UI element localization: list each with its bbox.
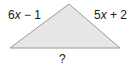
left-side-label: 6x − 1 <box>8 8 41 22</box>
base-side-label: ? <box>59 52 66 66</box>
triangle-diagram: 6x − 1 5x + 2 ? <box>0 0 134 68</box>
right-side-label: 5x + 2 <box>94 8 127 22</box>
